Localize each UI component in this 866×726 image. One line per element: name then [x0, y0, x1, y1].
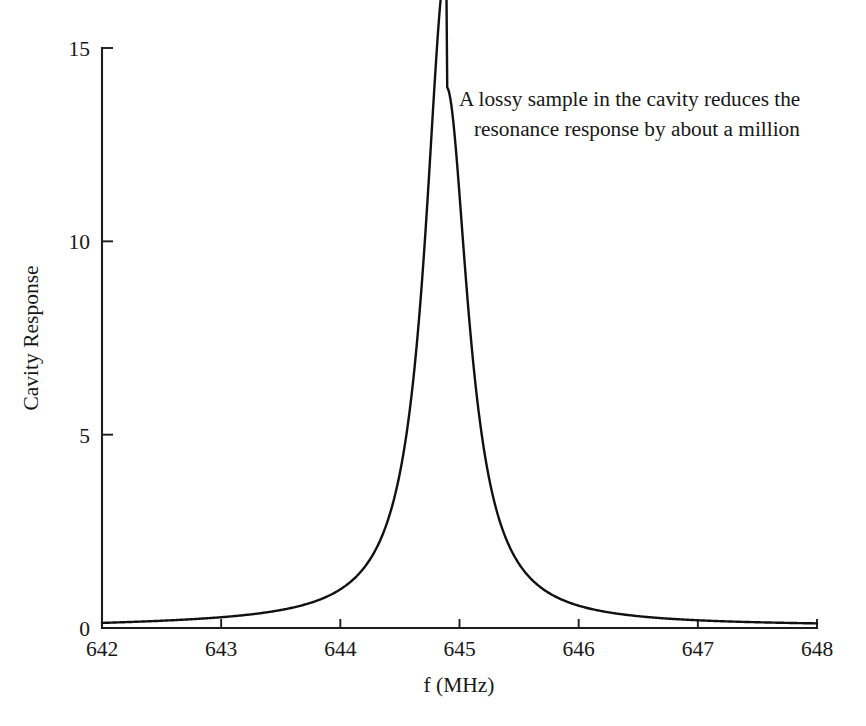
x-tick-label-646: 646: [563, 637, 596, 661]
y-tick-label-10: 10: [69, 230, 91, 254]
x-tick-label-647: 647: [682, 637, 715, 661]
annotation-lossy-sample-line2: resonance response by about a million: [474, 114, 800, 144]
x-tick-label-644: 644: [324, 637, 357, 661]
y-tick-label-15: 15: [69, 37, 91, 61]
y-axis-label: Cavity Response: [19, 265, 43, 410]
x-tick-label-648: 648: [801, 637, 833, 661]
x-axis-label: f (MHz): [423, 673, 494, 697]
chart-figure: 051015 642643644645646647648 f (MHz) Cav…: [0, 0, 866, 726]
x-tick-label-645: 645: [443, 637, 475, 661]
y-axis-tick-labels: 051015: [69, 37, 91, 641]
annotation-lossy-sample-line1: A lossy sample in the cavity reduces the: [459, 84, 800, 114]
x-tick-label-643: 643: [205, 637, 237, 661]
x-axis-tick-labels: 642643644645646647648: [86, 637, 833, 661]
y-tick-label-5: 5: [79, 424, 90, 448]
x-tick-label-642: 642: [86, 637, 118, 661]
y-axis-ticks: [102, 48, 113, 628]
